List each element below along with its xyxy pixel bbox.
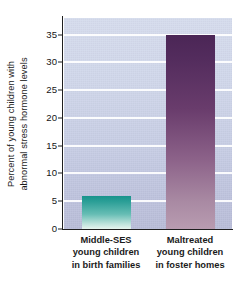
y-axis-title-line-1: Percent of young children with [5,18,18,230]
plot-area [64,18,232,229]
y-axis-tick-label: 15 [46,141,57,151]
x-axis-line [62,229,233,230]
y-axis-tick-label: 30 [46,57,57,67]
y-axis-title-text: Percent of young children with abnormal … [5,18,30,230]
y-axis-title-line-2: abnormal stress hormone levels [17,18,30,230]
bar-2 [166,35,215,229]
x-axis-category-1-line-3: in birth families [64,259,148,271]
x-axis-category-label-2: Maltreatedyoung childrenin foster homes [148,234,232,271]
x-axis-category-2-line-3: in foster homes [148,259,232,271]
bar-chart-figure: Percent of young children with abnormal … [0,0,247,286]
y-axis-tick-label: 10 [46,168,57,178]
x-axis-category-1-line-2: young children [64,246,148,258]
bar-1 [82,196,131,229]
y-axis-tick-label: 20 [46,113,57,123]
y-axis-title: Percent of young children with abnormal … [0,18,34,230]
x-axis-category-2-line-2: young children [148,246,232,258]
x-axis-category-2-line-1: Maltreated [148,234,232,246]
x-axis-category-labels: Middle-SESyoung childrenin birth familie… [62,234,233,280]
x-axis-category-1-line-1: Middle-SES [64,234,148,246]
x-axis-category-label-1: Middle-SESyoung childrenin birth familie… [64,234,148,271]
y-axis-tick-labels: 05101520253035 [34,18,57,230]
y-axis-tick-label: 35 [46,30,57,40]
y-axis-tick-label: 25 [46,85,57,95]
